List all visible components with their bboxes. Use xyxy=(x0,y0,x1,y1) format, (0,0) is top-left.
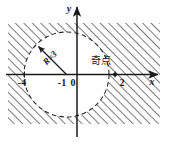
x-tick-label-2: 2 xyxy=(120,77,125,88)
x-axis-label: x xyxy=(149,76,155,87)
singular-point-dot xyxy=(113,72,117,76)
singular-point-label: 奇点 xyxy=(91,54,111,66)
y-axis-label: y xyxy=(66,3,72,14)
x-tick-label-zero: 0 xyxy=(71,77,76,88)
figure-container: y x -4 -1 0 2 R=3 奇点 xyxy=(0,0,172,145)
convergence-disk-figure: y x -4 -1 0 2 R=3 奇点 xyxy=(0,0,172,145)
x-tick-label-minus1: -1 xyxy=(58,77,66,88)
x-tick-label-minus4: -4 xyxy=(18,77,26,88)
